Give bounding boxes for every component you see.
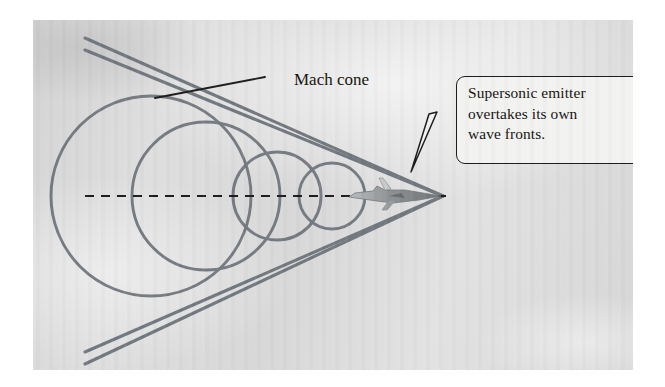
mach-cone-upper-line-a [85,38,443,196]
callout-line-2: overtakes its own [468,104,633,125]
mach-cone-lower-line-b [85,196,443,364]
callout-line-3: wave fronts. [468,124,633,145]
mach-cone-upper-line-b [85,50,443,196]
callout-tail [411,112,437,172]
emitter-callout-box: Supersonic emitter overtakes its own wav… [456,76,633,164]
scanned-photo-plate: Mach cone Supersonic emitter overtakes i… [33,20,633,370]
mach-cone-lower-line-a [85,196,443,352]
callout-line-1: Supersonic emitter [468,83,633,104]
figure-root: Mach cone Supersonic emitter overtakes i… [0,0,665,387]
mach-cone-label: Mach cone [294,70,369,90]
